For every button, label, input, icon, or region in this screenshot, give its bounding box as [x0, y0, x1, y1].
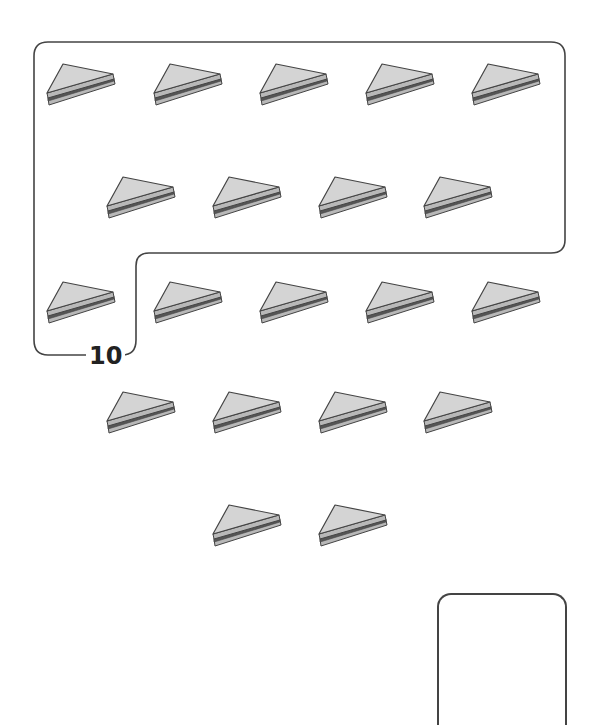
- answer-box[interactable]: [437, 593, 567, 725]
- sandwich-icon: [470, 280, 542, 328]
- sandwich-icon: [258, 62, 330, 110]
- sandwich-icon: [422, 390, 494, 438]
- group-count-label: 10: [86, 344, 125, 368]
- sandwich-icon: [364, 280, 436, 328]
- sandwich-icon: [422, 175, 494, 223]
- sandwich-icon: [317, 390, 389, 438]
- sandwich-icon: [211, 503, 283, 551]
- sandwich-icon: [105, 390, 177, 438]
- sandwich-icon: [45, 280, 117, 328]
- sandwich-icon: [364, 62, 436, 110]
- sandwich-icon: [211, 390, 283, 438]
- sandwich-icon: [317, 503, 389, 551]
- sandwich-icon: [105, 175, 177, 223]
- sandwich-icon: [258, 280, 330, 328]
- sandwich-icon: [470, 62, 542, 110]
- sandwich-icon: [211, 175, 283, 223]
- sandwich-icon: [317, 175, 389, 223]
- sandwich-icon: [152, 62, 224, 110]
- sandwich-icon: [152, 280, 224, 328]
- sandwich-icon: [45, 62, 117, 110]
